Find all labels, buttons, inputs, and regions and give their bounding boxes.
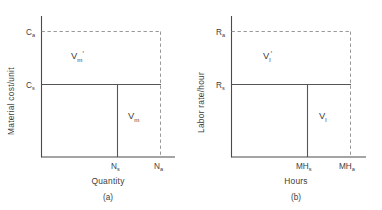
panel-b-y-tick-actual: Ra — [216, 28, 226, 38]
panel-b-region-labor-rate-variance: Vl′ — [263, 50, 273, 63]
panel-a-y-tick-standard: Cs — [26, 81, 35, 91]
panel-a-y-tick-actual: Ca — [26, 28, 36, 38]
panel-a-x-axis-title: Quantity — [91, 176, 125, 186]
panel-b-y-tick-standard: Rs — [216, 81, 225, 91]
panel-a-plot: Ca Cs Ns Na Vm′ Vm Material cost/unit Qu… — [0, 0, 191, 210]
panel-a-x-tick-standard: Ns — [111, 162, 120, 172]
panel-b-x-tick-actual: MHa — [339, 162, 356, 172]
panel-b-plot: Ra Rs MHs MHa Vl′ Vl Labor rate/hour Hou… — [191, 0, 382, 210]
panel-b-y-axis-title: Labor rate/hour — [196, 72, 206, 133]
panel-a-y-axis-title: Material cost/unit — [6, 67, 16, 135]
panel-a-caption: (a) — [103, 193, 113, 202]
panel-b-caption: (b) — [291, 193, 301, 202]
panel-b: Ra Rs MHs MHa Vl′ Vl Labor rate/hour Hou… — [191, 0, 382, 210]
panel-a: Ca Cs Ns Na Vm′ Vm Material cost/unit Qu… — [0, 0, 191, 210]
panel-a-x-tick-actual: Na — [154, 162, 164, 172]
panel-b-x-tick-standard: MHs — [296, 162, 312, 172]
panel-a-region-material-price-variance: Vm′ — [71, 50, 84, 63]
panel-a-region-material-quantity-variance: Vm — [128, 110, 139, 123]
panel-b-region-labor-efficiency-variance: Vl — [319, 110, 327, 123]
panel-b-x-axis-title: Hours — [284, 176, 308, 186]
figure-root: Ca Cs Ns Na Vm′ Vm Material cost/unit Qu… — [0, 0, 382, 210]
